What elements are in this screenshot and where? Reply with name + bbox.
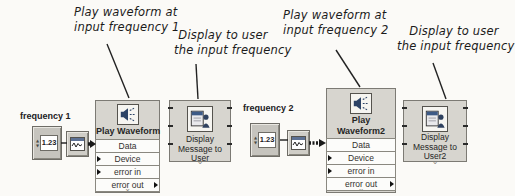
convert-to-dynamic-icon — [70, 137, 85, 151]
play-waveform-1-node[interactable]: Play Waveform Data Device error in error… — [95, 100, 160, 193]
annotation-line: the input frequency — [174, 43, 272, 58]
dialog-user-icon — [187, 106, 213, 132]
terminal-row-error-in[interactable]: error in — [96, 166, 159, 179]
annotation-display-2: Display to user the input frequency — [397, 24, 511, 54]
terminal-row-device[interactable]: Device — [327, 152, 395, 165]
control-label-frequency-2: frequency 2 — [243, 103, 294, 113]
input-stub-icon — [402, 125, 407, 127]
input-stub-icon — [402, 143, 407, 145]
annotation-pointer-line — [196, 64, 198, 99]
annotation-line: Display to user — [174, 28, 272, 43]
input-arrow-icon — [97, 156, 101, 162]
speaker-icon — [350, 93, 372, 114]
chevron-down-icon[interactable]: ⌄ — [170, 159, 230, 165]
numeric-terminal-value: 1.23 — [258, 132, 276, 148]
numeric-terminal-value: 1.23 — [40, 135, 58, 151]
wire-arrow-icon — [319, 139, 326, 147]
input-stub-icon — [402, 107, 407, 109]
input-stub-icon — [168, 143, 173, 145]
annotation-pointer-line — [336, 50, 360, 87]
speaker-icon — [117, 104, 139, 125]
labview-block-diagram: Play waveform at input frequency 1 Displ… — [0, 0, 515, 196]
annotation-line: Play waveform at — [283, 8, 381, 23]
node-title: Play Waveform — [96, 126, 159, 137]
terminal-row-data[interactable]: Data — [96, 140, 159, 153]
numeric-terminal-frequency-1[interactable]: ▲▼ 1.23 — [32, 126, 62, 160]
dialog-user-icon — [422, 106, 448, 132]
annotation-play-frequency-1: Play waveform at input frequency 1 — [74, 5, 170, 35]
spinner-arrows-icon: ▲▼ — [36, 139, 39, 148]
output-stub-icon — [227, 143, 232, 145]
node-title: Play Waveform2 — [327, 115, 395, 137]
input-stub-icon — [168, 107, 173, 109]
convert-to-dynamic-data-node-2[interactable] — [287, 130, 310, 156]
display-message-1-node[interactable]: Display Message to User ⌄ — [169, 100, 231, 162]
terminal-row-device[interactable]: Device — [96, 153, 159, 166]
annotation-display-1: Display to user the input frequency — [174, 28, 272, 58]
annotation-pointer-line — [107, 44, 129, 98]
annotation-line: Play waveform at — [74, 5, 170, 20]
input-arrow-icon — [328, 168, 332, 174]
input-stub-icon — [168, 125, 173, 127]
annotation-play-frequency-2: Play waveform at input frequency 2 — [283, 8, 381, 38]
numeric-terminal-frequency-2[interactable]: ▲▼ 1.23 — [250, 123, 280, 157]
annotation-line: input frequency 1 — [74, 20, 170, 35]
chevron-down-icon[interactable]: ⌄ — [404, 159, 466, 165]
terminal-row-data[interactable]: Data — [327, 139, 395, 152]
convert-to-dynamic-icon — [291, 136, 306, 150]
annotation-line: input frequency 2 — [283, 23, 381, 38]
convert-to-dynamic-data-node-1[interactable] — [66, 131, 89, 157]
chevron-down-icon[interactable]: ⌄ — [327, 186, 395, 192]
display-message-2-node[interactable]: Display Message to User2 ⌄ — [403, 100, 467, 162]
output-stub-icon — [463, 125, 468, 127]
output-stub-icon — [463, 107, 468, 109]
spinner-arrows-icon: ▲▼ — [254, 136, 257, 145]
output-stub-icon — [227, 107, 232, 109]
input-arrow-icon — [97, 169, 101, 175]
terminal-row-error-in[interactable]: error in — [327, 165, 395, 178]
annotation-line: Display to user — [397, 24, 511, 39]
play-waveform-2-node[interactable]: Play Waveform2 Data Device error in erro… — [326, 88, 396, 193]
control-label-frequency-1: frequency 1 — [20, 111, 71, 121]
input-arrow-icon — [328, 155, 332, 161]
chevron-down-icon[interactable]: ⌄ — [96, 186, 159, 192]
annotation-pointer-line — [433, 63, 446, 99]
output-stub-icon — [463, 143, 468, 145]
annotation-line: the input frequency — [397, 39, 511, 54]
output-stub-icon — [227, 125, 232, 127]
